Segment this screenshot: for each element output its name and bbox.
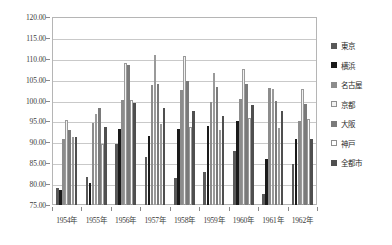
bars-layer [52,17,317,205]
y-axis-tick-label: 85.00 [30,159,46,168]
bar-group [170,17,199,205]
chart-legend: 東京横浜名古屋京都大阪神戸全都市 [331,36,389,173]
bar-chart: 120.00115.00110.00105.00100.0095.0090.00… [0,0,392,245]
bar-group [288,17,317,205]
legend-item-東京[interactable]: 東京 [331,36,389,56]
bar-group [258,17,287,205]
x-axis-tick-label: 1954年 [56,214,77,225]
y-axis-tick-label: 100.00 [26,96,46,105]
y-axis-tick-label: 90.00 [30,138,46,147]
x-axis-tick-label: 1960年 [233,214,254,225]
legend-item-京都[interactable]: 京都 [331,95,389,115]
legend-item-label: 名古屋 [341,79,361,90]
x-axis-tick-label: 1956年 [115,214,136,225]
y-axis-tick [46,80,50,81]
legend-item-label: 全都市 [341,157,361,168]
legend-item-label: 京都 [341,99,355,110]
y-axis-tick-label: 105.00 [26,75,46,84]
y-axis: 120.00115.00110.00105.00100.0095.0090.00… [0,17,50,205]
x-axis-tick [288,207,289,211]
x-axis-tick-label: 1962年 [292,214,313,225]
x-axis-tick [258,207,259,211]
y-axis-tick-label: 75.00 [30,201,46,210]
legend-item-label: 横浜 [341,60,355,71]
bar-group [140,17,169,205]
x-axis-tick [170,207,171,211]
bar-全都市-1962年 [310,139,313,205]
bar-全都市-1960年 [251,105,254,205]
legend-swatch-icon [331,160,337,166]
y-axis-tick [46,17,50,18]
y-axis-tick [46,121,50,122]
legend-swatch-icon [331,62,337,68]
y-axis-tick [46,38,50,39]
x-axis-tick-label: 1959年 [203,214,224,225]
bar-全都市-1955年 [104,127,107,205]
legend-item-横浜[interactable]: 横浜 [331,56,389,76]
bar-全都市-1954年 [75,137,78,206]
y-axis-tick [46,184,50,185]
bar-全都市-1958年 [192,111,195,205]
y-axis-tick [46,205,50,206]
legend-item-label: 神戸 [341,138,355,149]
x-axis-tick-label: 1955年 [86,214,107,225]
legend-item-大阪[interactable]: 大阪 [331,114,389,134]
y-axis-tick-label: 95.00 [30,117,46,126]
y-axis-tick [46,59,50,60]
y-axis-tick [46,142,50,143]
x-axis-tick-label: 1961年 [262,214,283,225]
x-axis-tick-label: 1958年 [174,214,195,225]
x-axis-tick [52,207,53,211]
y-axis-tick [46,163,50,164]
legend-item-label: 東京 [341,40,355,51]
bar-group [199,17,228,205]
legend-swatch-icon [331,121,337,127]
x-axis-tick-label: 1957年 [145,214,166,225]
bar-group [229,17,258,205]
legend-item-神戸[interactable]: 神戸 [331,134,389,154]
x-axis: 1954年1955年1956年1957年1958年1959年1960年1961年… [52,207,317,227]
x-axis-tick [317,207,318,211]
bar-全都市-1961年 [281,111,284,205]
y-axis-tick-label: 120.00 [26,13,46,22]
y-axis-tick-label: 115.00 [26,33,46,42]
bar-group [52,17,81,205]
bar-全都市-1956年 [133,103,136,205]
legend-item-名古屋[interactable]: 名古屋 [331,75,389,95]
legend-swatch-icon [331,140,337,146]
legend-item-全都市[interactable]: 全都市 [331,153,389,173]
x-axis-tick [111,207,112,211]
y-axis-tick-label: 80.00 [30,180,46,189]
bar-全都市-1959年 [222,116,225,205]
bar-group [111,17,140,205]
x-axis-tick [140,207,141,211]
y-axis-tick-label: 110.00 [26,54,46,63]
legend-swatch-icon [331,101,337,107]
legend-item-label: 大阪 [341,118,355,129]
bar-group [81,17,110,205]
legend-swatch-icon [331,43,337,49]
y-axis-tick [46,101,50,102]
x-axis-tick [199,207,200,211]
legend-swatch-icon [331,82,337,88]
x-axis-tick [81,207,82,211]
bar-全都市-1957年 [163,108,166,205]
x-axis-tick [229,207,230,211]
